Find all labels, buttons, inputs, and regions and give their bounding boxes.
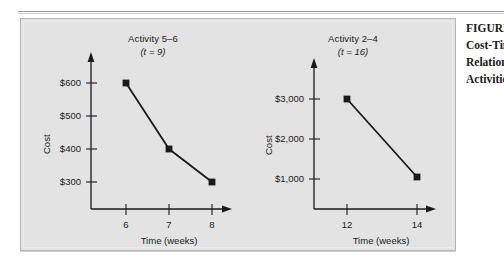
y-tick-label-1000: $1,000 [249, 173, 304, 184]
chart-left-plot [29, 19, 277, 252]
chart-activity-2-4: Activity 2–4 (t = 16) $3,000 $2,000 $1,0… [249, 19, 457, 252]
top-divider-rule-shadow [18, 13, 504, 14]
x-tick-label-12: 12 [333, 219, 361, 230]
cost-time-line [347, 99, 417, 177]
x-tick-label-8: 8 [198, 219, 226, 230]
figure-caption-line-3: Relationships for [466, 54, 504, 71]
x-axis-title: Time (weeks) [319, 235, 443, 246]
chart-activity-5-6: Activity 5–6 (t = 9) $600 $5 [29, 19, 277, 252]
y-tick-label-3000: $3,000 [249, 93, 304, 104]
y-tick-label-2000: $2,000 [249, 133, 304, 144]
x-tick-label-7: 7 [155, 219, 183, 230]
x-tick-label-6: 6 [112, 219, 140, 230]
x-axis-title: Time (weeks) [107, 235, 231, 246]
figure-caption-line-2: Cost-Time [466, 37, 504, 54]
y-tick-label-500: $500 [29, 110, 81, 121]
cost-time-line [126, 83, 212, 182]
data-point-6-600 [123, 80, 130, 87]
top-divider-rule [18, 11, 504, 12]
data-point-7-410 [166, 146, 173, 153]
y-axis-title: Cost [263, 135, 274, 155]
y-axis-arrowhead [311, 58, 318, 68]
data-point-8-310 [209, 179, 216, 186]
y-tick-label-600: $600 [29, 77, 81, 88]
y-tick-label-300: $300 [29, 176, 81, 187]
figure-panel: Activity 5–6 (t = 9) $600 $5 [20, 18, 456, 251]
x-axis-arrowhead [426, 206, 436, 213]
figure-caption-line-4: Activities [466, 71, 504, 88]
y-axis-title: Cost [41, 134, 52, 154]
data-point-12-3000 [344, 96, 351, 103]
x-tick-label-14: 14 [403, 219, 431, 230]
figure-caption-line-1: FIGURE [466, 20, 504, 37]
x-axis-arrowhead [222, 206, 232, 213]
y-axis-arrowhead [88, 52, 95, 62]
y-tick-label-400: $400 [29, 143, 81, 154]
data-point-14-1050 [414, 174, 421, 181]
figure-caption: FIGURE Cost-Time Relationships for Activ… [466, 20, 504, 90]
